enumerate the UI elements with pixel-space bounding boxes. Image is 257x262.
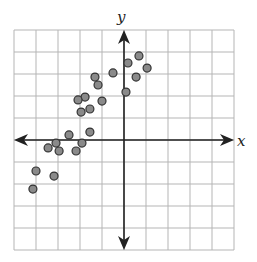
data-point bbox=[77, 108, 85, 116]
data-points bbox=[29, 52, 151, 193]
data-point bbox=[44, 144, 52, 152]
data-point bbox=[78, 139, 86, 147]
data-point bbox=[132, 73, 140, 81]
data-point bbox=[91, 73, 99, 81]
data-point bbox=[74, 96, 82, 104]
data-point bbox=[52, 139, 60, 147]
data-point bbox=[94, 81, 102, 89]
scatter-plot: x y bbox=[0, 0, 257, 262]
y-axis-label: y bbox=[116, 8, 126, 26]
data-point bbox=[65, 131, 73, 139]
data-point bbox=[32, 167, 40, 175]
data-point bbox=[135, 52, 143, 60]
data-point bbox=[109, 69, 117, 77]
data-point bbox=[86, 128, 94, 136]
data-point bbox=[55, 147, 63, 155]
data-point bbox=[143, 64, 151, 72]
data-point bbox=[98, 97, 106, 105]
data-point bbox=[29, 185, 37, 193]
data-point bbox=[72, 147, 80, 155]
data-point bbox=[122, 88, 130, 96]
data-point bbox=[124, 59, 132, 67]
data-point bbox=[50, 172, 58, 180]
x-axis-label: x bbox=[237, 132, 246, 150]
data-point bbox=[86, 105, 94, 113]
